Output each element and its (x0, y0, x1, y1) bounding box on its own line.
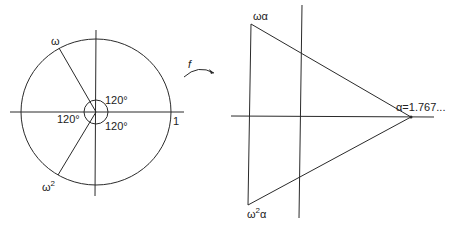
right-real-axis (231, 116, 434, 117)
angle-label-bottom: 120° (105, 120, 128, 132)
map-label-f: f (188, 58, 192, 70)
diagram-canvas: ω ω2 1 120° 120° 120° f ωα ω2α α=1.767..… (0, 0, 451, 229)
omega-label: ω (51, 35, 60, 47)
angle-label-left: 120° (57, 113, 80, 125)
map-arrow: f (184, 58, 214, 77)
unit-circle-figure: ω ω2 1 120° 120° 120° (10, 30, 184, 196)
curved-arrow-shaft (184, 69, 214, 77)
omega-radius (59, 48, 96, 112)
omega-squared-alpha-label: ω2α (247, 206, 267, 220)
one-label: 1 (173, 115, 179, 127)
right-imaginary-axis (299, 5, 302, 218)
omega-squared-label: ω2 (42, 179, 56, 193)
alpha-value-label: α=1.767... (396, 101, 445, 113)
alpha-point (410, 116, 413, 119)
omega-alpha-label: ωα (253, 10, 269, 22)
angle-label-top: 120° (105, 94, 128, 106)
triangle (248, 24, 411, 205)
scaled-triangle-figure: ωα ω2α α=1.767... (231, 5, 445, 220)
